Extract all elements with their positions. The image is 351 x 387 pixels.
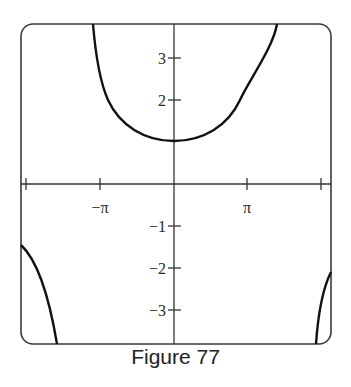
x-tick-label-pi: π — [243, 199, 251, 216]
y-tick-label-neg-2: −2 — [149, 260, 166, 277]
y-tick-label-neg-3: −3 — [149, 302, 166, 319]
curve-lower-left-branch — [21, 245, 57, 344]
x-tick-label-neg-pi: −π — [91, 199, 108, 216]
chart-plot: −π π 3 2 −1 −2 −3 — [0, 0, 351, 387]
y-tick-label-2: 2 — [158, 92, 166, 109]
curve-upper-branch — [93, 24, 277, 141]
figure-caption: Figure 77 — [0, 345, 351, 369]
y-tick-label-3: 3 — [158, 50, 166, 67]
y-tick-label-neg-1: −1 — [149, 218, 166, 235]
curve-lower-right-branch — [316, 272, 331, 344]
